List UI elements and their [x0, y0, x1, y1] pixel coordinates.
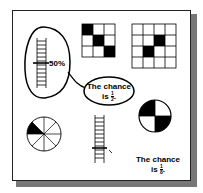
pie-eighths-icon: [27, 117, 61, 151]
grid-3x3: [82, 24, 115, 57]
bubble-line2: is 12.: [84, 91, 134, 102]
bubble-line1: The chance: [84, 82, 134, 91]
bubble-fraction: 12: [111, 91, 114, 102]
bottom-is: is: [151, 165, 158, 174]
bottom-fraction: 18: [160, 164, 163, 175]
grid-4x4: [132, 24, 176, 68]
circle-quarters-icon: [139, 100, 171, 132]
ladder-left-icon: [33, 38, 49, 88]
label-50-percent: 50%: [49, 59, 65, 68]
bubble-is: is: [102, 92, 109, 101]
bottom-text: The chance is 18.: [130, 155, 186, 175]
ladder-bottom-icon: [92, 115, 112, 163]
bottom-line1: The chance: [130, 155, 186, 164]
bottom-line2: is 18.: [130, 164, 186, 175]
bubble-text: The chance is 12.: [84, 82, 134, 102]
